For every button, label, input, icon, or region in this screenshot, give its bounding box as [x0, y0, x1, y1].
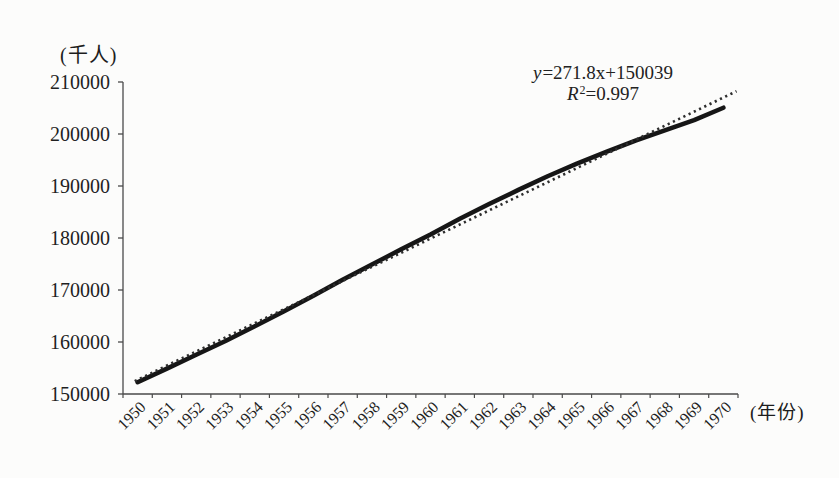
equation-variable: y — [533, 62, 542, 83]
x-tick-label: 1964 — [524, 398, 559, 433]
x-tick-label: 1967 — [612, 398, 647, 433]
x-axis-unit-label: (年份) — [750, 397, 805, 424]
equation-expression: =271.8x+150039 — [542, 62, 673, 83]
x-tick-label: 1956 — [290, 398, 325, 433]
x-tick-label: 1961 — [436, 398, 471, 433]
x-tick-label: 1950 — [114, 398, 149, 433]
y-tick-label: 180000 — [50, 227, 110, 249]
x-tick-label: 1951 — [143, 398, 178, 433]
x-tick-label: 1958 — [348, 398, 383, 433]
trendline-equation-text: y=271.8x+150039 — [480, 62, 726, 83]
x-tick-label: 1962 — [466, 398, 501, 433]
x-tick-label: 1970 — [700, 398, 735, 433]
y-tick-label: 190000 — [50, 175, 110, 197]
y-tick-label: 170000 — [50, 279, 110, 301]
y-tick-label: 210000 — [50, 71, 110, 93]
x-tick-label: 1959 — [378, 398, 413, 433]
r-squared-variable: R — [567, 83, 580, 104]
x-tick-label: 1968 — [641, 398, 676, 433]
x-tick-label: 1969 — [671, 398, 706, 433]
x-tick-label: 1960 — [407, 398, 442, 433]
x-tick-label: 1955 — [261, 398, 296, 433]
y-tick-label: 150000 — [50, 383, 110, 405]
data-series-line — [138, 108, 724, 383]
x-tick-label: 1953 — [202, 398, 237, 433]
x-tick-label: 1952 — [173, 398, 208, 433]
y-tick-label: 200000 — [50, 123, 110, 145]
trendline-annotation: y=271.8x+150039 R2=0.997 — [480, 62, 726, 104]
y-axis-unit-label: (千人) — [60, 39, 117, 68]
x-tick-label: 1954 — [231, 398, 266, 433]
r-squared-value: =0.997 — [586, 83, 639, 104]
r-squared-text: R2=0.997 — [480, 83, 726, 104]
population-line-chart-figure: 1500001600001700001800001900002000002100… — [0, 0, 839, 478]
x-tick-label: 1966 — [583, 398, 618, 433]
x-tick-label: 1963 — [495, 398, 530, 433]
x-tick-label: 1957 — [319, 398, 354, 433]
x-tick-label: 1965 — [553, 398, 588, 433]
y-tick-label: 160000 — [50, 331, 110, 353]
